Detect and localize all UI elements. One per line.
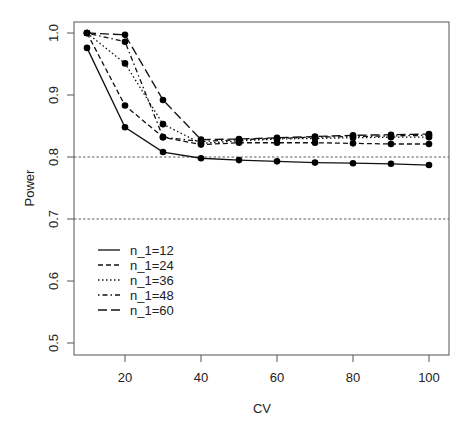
power-vs-cv-chart: 20406080100 0.50.60.70.80.91.0 CV Power … [0, 0, 466, 429]
y-tick-label: 0.7 [46, 210, 61, 228]
data-point [312, 159, 319, 166]
data-point [122, 32, 129, 39]
y-axis-label: Power [22, 169, 37, 207]
series-n-1-48 [84, 30, 433, 145]
series-n-1-24 [84, 30, 433, 148]
data-point [426, 131, 433, 138]
x-tick-label: 100 [418, 370, 440, 385]
data-point [198, 136, 205, 143]
legend-label: n_1=36 [130, 273, 174, 288]
data-point [160, 134, 167, 141]
data-series [84, 30, 433, 169]
series-line [87, 33, 429, 140]
data-point [426, 141, 433, 148]
data-point [160, 121, 167, 128]
data-point [198, 155, 205, 162]
data-point [388, 131, 395, 138]
data-point [84, 30, 91, 37]
data-point [236, 136, 243, 143]
series-line [87, 33, 429, 143]
y-tick-label: 1.0 [46, 24, 61, 42]
legend-label: n_1=24 [130, 258, 174, 273]
data-point [84, 45, 91, 52]
data-point [388, 141, 395, 148]
legend: n_1=12n_1=24n_1=36n_1=48n_1=60 [98, 243, 174, 318]
y-tick-label: 0.8 [46, 148, 61, 166]
data-point [236, 157, 243, 164]
legend-label: n_1=48 [130, 288, 174, 303]
data-point [274, 158, 281, 165]
x-tick-label: 40 [194, 370, 208, 385]
series-n-1-36 [84, 30, 433, 147]
y-axis: 0.50.60.70.80.91.0 [46, 24, 74, 352]
series-n-1-60 [84, 30, 433, 143]
legend-label: n_1=60 [130, 303, 174, 318]
data-point [388, 161, 395, 168]
data-point [274, 134, 281, 141]
x-axis: 20406080100 [118, 355, 440, 385]
series-line [87, 33, 429, 145]
x-tick-label: 80 [346, 370, 360, 385]
x-tick-label: 20 [118, 370, 132, 385]
legend-label: n_1=12 [130, 243, 174, 258]
series-line [87, 48, 429, 165]
data-point [160, 97, 167, 104]
data-point [312, 133, 319, 140]
series-n-1-12 [84, 45, 433, 169]
y-tick-label: 0.5 [46, 334, 61, 352]
x-axis-label: CV [253, 401, 271, 416]
data-point [426, 162, 433, 169]
series-line [87, 33, 429, 142]
y-tick-label: 0.6 [46, 272, 61, 290]
data-point [160, 149, 167, 156]
data-point [122, 124, 129, 131]
data-point [122, 60, 129, 67]
data-point [350, 132, 357, 139]
data-point [350, 160, 357, 167]
x-tick-label: 60 [270, 370, 284, 385]
y-tick-label: 0.9 [46, 86, 61, 104]
data-point [122, 102, 129, 109]
